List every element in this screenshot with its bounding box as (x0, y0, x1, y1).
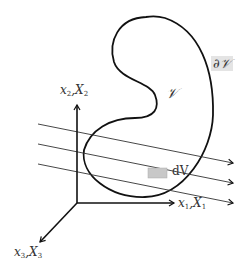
axis-x1-upper-index: 1 (202, 203, 206, 211)
volume-element-label: dV (172, 165, 188, 177)
axis-x2-upper: X (75, 83, 84, 97)
parallel-line-1 (38, 124, 233, 163)
axis-x2-label: x2,X2 (60, 84, 88, 98)
axis-x2-lower-index: 2 (67, 90, 71, 98)
axis-x1-lower-index: 1 (185, 203, 189, 211)
axis-x1-upper: X (193, 196, 202, 210)
axis-x3-upper: X (29, 245, 38, 259)
axis-x3-lower-index: 3 (21, 252, 25, 260)
axis-x2-lower: x (60, 83, 67, 97)
axis-x1-lower: x (178, 196, 185, 210)
axis-x3-label: x3,X3 (14, 246, 42, 260)
axis-x3-lower: x (14, 245, 21, 259)
region-label: 𝒱 (166, 86, 178, 100)
diagram-canvas: 𝒱 ∂𝒱 dV x2,X2 x1,X1 x3,X3 (0, 0, 245, 272)
axis-x1-label: x1,X1 (178, 197, 206, 211)
axis-x2-upper-index: 2 (84, 90, 88, 98)
axis-x3-upper-index: 3 (38, 252, 42, 260)
volume-element-box (148, 168, 167, 178)
axis-x3-arrow (40, 203, 77, 242)
boundary-label: ∂𝒱 (211, 56, 233, 71)
diagram-svg (0, 0, 245, 272)
